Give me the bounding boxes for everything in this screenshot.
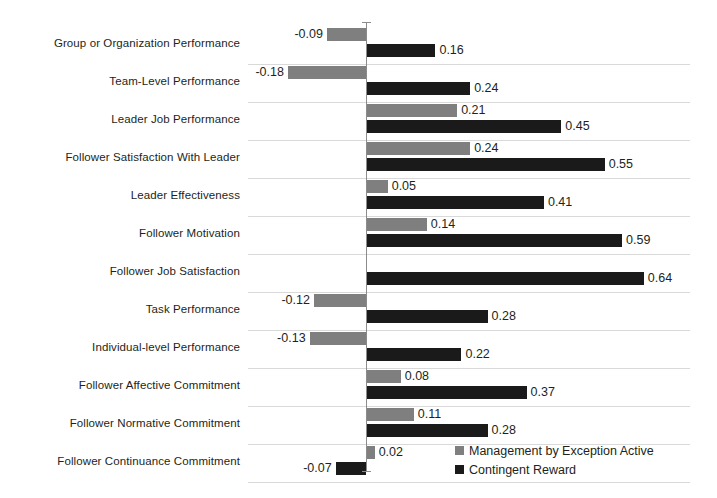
category-label: Team-Level Performance	[109, 75, 240, 87]
bar-row: Follower Normative Commitment0.110.28	[0, 404, 717, 442]
bar-black	[366, 424, 488, 437]
category-label: Follower Satisfaction With Leader	[65, 151, 240, 163]
category-label: Follower Motivation	[139, 227, 240, 239]
bar-value-label: 0.11	[418, 408, 441, 421]
category-label: Follower Continuance Commitment	[57, 455, 240, 467]
bar-row: Follower Motivation0.140.59	[0, 214, 717, 252]
bar-value-label: 0.28	[492, 424, 516, 437]
bar-gray	[314, 294, 366, 307]
bar-chart: Group or Organization Performance-0.090.…	[0, 0, 717, 498]
bar-row: Individual-level Performance-0.130.22	[0, 328, 717, 366]
gridline	[248, 482, 690, 483]
bar-gray	[366, 408, 414, 421]
bar-value-label: 0.21	[461, 104, 485, 117]
bar-black	[366, 386, 527, 399]
bar-black	[366, 44, 435, 57]
zero-axis-line	[366, 22, 367, 472]
plot-area: Group or Organization Performance-0.090.…	[0, 0, 717, 498]
category-label: Leader Job Performance	[111, 113, 240, 125]
category-label: Group or Organization Performance	[54, 37, 240, 49]
category-label: Leader Effectiveness	[131, 189, 240, 201]
bar-row: Task Performance-0.120.28	[0, 290, 717, 328]
bar-gray	[366, 142, 470, 155]
bar-value-label: 0.22	[465, 348, 489, 361]
bar-gray	[366, 446, 375, 459]
bar-value-label: -0.18	[255, 66, 284, 79]
bar-row: Team-Level Performance-0.180.24	[0, 62, 717, 100]
legend-swatch-icon	[455, 446, 464, 455]
category-label: Task Performance	[146, 303, 240, 315]
bar-row: Follower Affective Commitment0.080.37	[0, 366, 717, 404]
bar-value-label: 0.14	[431, 218, 455, 231]
bar-row: Leader Effectiveness0.050.41	[0, 176, 717, 214]
bar-value-label: 0.37	[531, 386, 555, 399]
bar-value-label: -0.07	[303, 462, 332, 475]
bar-value-label: 0.24	[474, 142, 498, 155]
chart-legend: Management by Exception Active Contingen…	[455, 441, 654, 479]
category-label: Follower Job Satisfaction	[110, 265, 240, 277]
bar-row: Leader Job Performance0.210.45	[0, 100, 717, 138]
legend-item-management-by-exception-active: Management by Exception Active	[455, 441, 654, 460]
bar-gray	[310, 332, 366, 345]
bar-gray	[366, 370, 401, 383]
bar-row: Follower Satisfaction With Leader0.240.5…	[0, 138, 717, 176]
bar-black	[366, 272, 644, 285]
bar-gray	[366, 180, 388, 193]
bar-value-label: 0.64	[648, 272, 672, 285]
bar-gray	[327, 28, 366, 41]
bar-value-label: 0.16	[439, 44, 463, 57]
bar-value-label: -0.13	[277, 332, 306, 345]
bar-value-label: 0.05	[392, 180, 416, 193]
bar-value-label: 0.59	[626, 234, 650, 247]
bar-black	[366, 234, 622, 247]
bar-value-label: 0.08	[405, 370, 429, 383]
bar-black	[366, 82, 470, 95]
legend-label: Management by Exception Active	[469, 444, 654, 458]
bar-row: Group or Organization Performance-0.090.…	[0, 24, 717, 62]
axis-tick-top	[362, 22, 371, 23]
axis-tick-bottom	[362, 471, 371, 472]
legend-label: Contingent Reward	[469, 463, 576, 477]
bar-black	[336, 462, 366, 475]
bar-black	[366, 348, 461, 361]
bar-value-label: 0.24	[474, 82, 498, 95]
bar-value-label: 0.41	[548, 196, 572, 209]
bar-gray	[288, 66, 366, 79]
bar-value-label: 0.45	[565, 120, 589, 133]
bar-value-label: -0.09	[294, 28, 323, 41]
category-label: Follower Affective Commitment	[79, 379, 240, 391]
bar-value-label: 0.55	[609, 158, 633, 171]
legend-swatch-icon	[455, 465, 464, 474]
bar-black	[366, 310, 488, 323]
category-label: Individual-level Performance	[92, 341, 240, 353]
bar-black	[366, 196, 544, 209]
bar-value-label: -0.12	[281, 294, 310, 307]
bar-gray	[366, 218, 427, 231]
bar-value-label: 0.28	[492, 310, 516, 323]
bar-row: Follower Job Satisfaction0.64	[0, 252, 717, 290]
category-label: Follower Normative Commitment	[70, 417, 240, 429]
bar-black	[366, 120, 561, 133]
legend-item-contingent-reward: Contingent Reward	[455, 460, 654, 479]
bar-black	[366, 158, 605, 171]
bar-gray	[366, 104, 457, 117]
bar-value-label: 0.02	[379, 446, 403, 459]
